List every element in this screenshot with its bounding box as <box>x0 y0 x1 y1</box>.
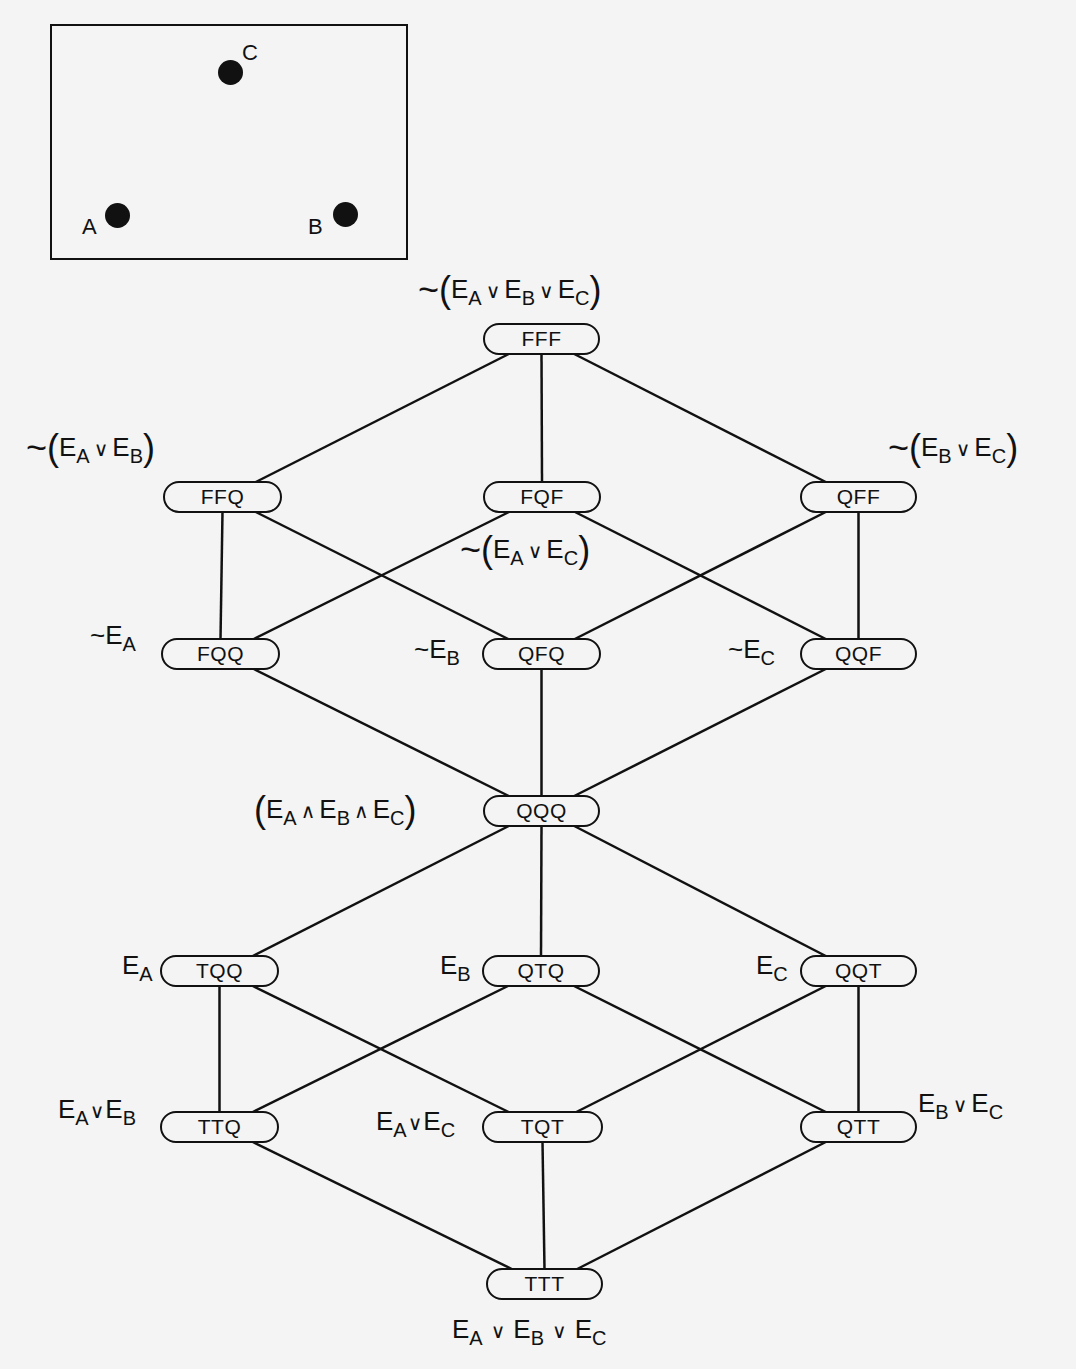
point-a-marker <box>105 203 130 228</box>
edge-fff-qff <box>574 354 825 482</box>
node-qqf: QQF <box>800 638 917 670</box>
node-qtt: QTT <box>800 1111 917 1143</box>
label-ttt: EA∨EB∨EC <box>452 1316 606 1348</box>
edge-qqq-qqt <box>574 826 825 956</box>
node-tqq: TQQ <box>160 955 279 987</box>
label-fqf: ~(EA∨EC) <box>460 532 590 568</box>
edge-fqq-qqq <box>254 669 509 796</box>
label-qff: ~(EB∨EC) <box>888 430 1018 466</box>
point-c-marker <box>218 60 243 85</box>
point-b-marker <box>333 202 358 227</box>
label-qqf: ~EC <box>728 636 775 668</box>
label-qtt: EB∨EC <box>918 1090 1003 1122</box>
label-qtq: EB <box>440 952 471 984</box>
label-fqq: ~EA <box>90 622 136 654</box>
node-ffq: FFQ <box>163 481 282 513</box>
label-qfq: ~EB <box>414 636 460 668</box>
node-qff: QFF <box>800 481 917 513</box>
node-qtq: QTQ <box>482 955 600 987</box>
point-b-label: B <box>308 214 323 240</box>
edge-ffq-fqq <box>221 512 223 639</box>
label-ffq: ~(EA∨EB) <box>26 430 155 466</box>
label-qqt: EC <box>756 952 788 984</box>
node-ttt: TTT <box>486 1268 603 1300</box>
edge-qqq-qtq <box>541 826 542 956</box>
node-tqt: TQT <box>482 1111 603 1143</box>
label-ttq: EA∨EB <box>58 1096 136 1128</box>
label-fff: ~(EA∨EB∨EC) <box>418 272 601 308</box>
edge-qqq-tqq <box>253 826 509 956</box>
edge-qtt-ttt <box>577 1142 825 1269</box>
label-qqq: (EA∧EB∧EC) <box>254 792 416 828</box>
label-tqq: EA <box>122 952 153 984</box>
edge-fff-ffq <box>256 354 509 482</box>
point-a-label: A <box>82 214 97 240</box>
node-fqq: FQQ <box>161 638 280 670</box>
node-ttq: TTQ <box>160 1111 279 1143</box>
node-fff: FFF <box>483 323 600 355</box>
node-qfq: QFQ <box>482 638 601 670</box>
edge-ttq-ttt <box>253 1142 512 1269</box>
edge-qqf-qqq <box>574 669 825 796</box>
edge-fff-fqf <box>542 354 543 482</box>
edge-tqt-ttt <box>543 1142 545 1269</box>
label-tqt: EA∨EC <box>376 1108 455 1140</box>
node-fqf: FQF <box>483 481 601 513</box>
point-c-label: C <box>242 40 258 66</box>
node-qqq: QQQ <box>483 795 600 827</box>
node-qqt: QQT <box>800 955 917 987</box>
